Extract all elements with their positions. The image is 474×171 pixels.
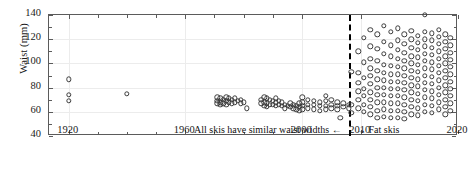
y-axis-minor-tick (49, 100, 52, 101)
data-point (395, 64, 400, 69)
data-point (381, 62, 386, 67)
y-axis-tick (452, 39, 456, 40)
data-point (429, 103, 434, 108)
data-point (415, 105, 420, 110)
data-point (66, 98, 71, 103)
data-point (349, 110, 354, 115)
y-axis-minor-tick (49, 76, 52, 77)
y-axis-tick (452, 88, 456, 89)
x-axis-minor-tick (244, 15, 245, 18)
y-axis-tick (49, 112, 53, 113)
data-point (368, 66, 373, 71)
data-point (124, 91, 129, 96)
data-point (402, 87, 407, 92)
y-axis-tick-label: 40 (0, 128, 41, 139)
x-axis-tick-label: 2020 (447, 124, 468, 135)
data-point (388, 72, 393, 77)
data-point (388, 29, 393, 34)
data-point (409, 90, 414, 95)
data-point (409, 61, 414, 66)
data-point (361, 93, 366, 98)
data-point (422, 51, 427, 56)
data-point (388, 115, 393, 120)
data-point (368, 97, 373, 102)
data-point (415, 91, 420, 96)
y-axis-minor-tick (454, 51, 457, 52)
data-point (422, 36, 427, 41)
data-point (375, 68, 380, 73)
data-point (361, 102, 366, 107)
data-point (402, 73, 407, 78)
data-point (436, 49, 441, 54)
y-axis-minor-tick (454, 100, 457, 101)
x-axis-minor-tick (156, 15, 157, 18)
data-point (415, 33, 420, 38)
data-point (422, 109, 427, 114)
y-axis-tick-label: 80 (0, 80, 41, 91)
x-axis-minor-tick (273, 15, 274, 18)
data-point (395, 56, 400, 61)
data-point (429, 67, 434, 72)
data-point (395, 47, 400, 52)
data-point (368, 112, 373, 117)
data-point (409, 36, 414, 41)
data-point (381, 92, 386, 97)
data-point (388, 43, 393, 48)
data-point (422, 87, 427, 92)
data-point (409, 45, 414, 50)
data-point (448, 93, 453, 98)
data-point (349, 102, 354, 107)
data-point (415, 47, 420, 52)
data-point (409, 97, 414, 102)
data-point (402, 102, 407, 107)
data-point (66, 76, 71, 81)
data-point (244, 105, 249, 110)
y-axis-tick (49, 15, 53, 16)
data-point (388, 86, 393, 91)
data-point (448, 79, 453, 84)
y-axis-tick (49, 39, 53, 40)
data-point (388, 101, 393, 106)
data-point (436, 63, 441, 68)
data-point (415, 113, 420, 118)
y-axis-minor-tick (49, 51, 52, 52)
data-point (422, 80, 427, 85)
data-point (436, 78, 441, 83)
data-point (402, 32, 407, 37)
x-axis-minor-tick (156, 132, 157, 135)
data-point (66, 92, 71, 97)
y-axis-tick (452, 136, 456, 137)
data-point (349, 69, 354, 74)
data-point (368, 44, 373, 49)
data-point (395, 115, 400, 120)
data-point (409, 68, 414, 73)
data-point (381, 78, 386, 83)
data-point (448, 64, 453, 69)
x-axis-tick-label: 1920 (57, 124, 78, 135)
y-axis-tick (452, 15, 456, 16)
data-point (381, 39, 386, 44)
data-point (368, 81, 373, 86)
data-point (375, 115, 380, 120)
data-point (415, 40, 420, 45)
data-point (381, 99, 386, 104)
data-point (429, 81, 434, 86)
data-point (422, 102, 427, 107)
data-point (448, 86, 453, 91)
data-point (402, 95, 407, 100)
data-point (381, 23, 386, 28)
data-point (241, 99, 246, 104)
data-point (436, 99, 441, 104)
data-point (388, 53, 393, 58)
data-point (429, 45, 434, 50)
data-point (402, 50, 407, 55)
data-point (402, 116, 407, 121)
data-point (436, 92, 441, 97)
data-point (381, 51, 386, 56)
x-axis-tick (302, 15, 303, 19)
y-axis-minor-tick (49, 27, 52, 28)
plot-area: All skis have similar waist widths ←→ Fa… (48, 14, 457, 135)
data-point (395, 26, 400, 31)
data-point (402, 80, 407, 85)
data-point (395, 72, 400, 77)
